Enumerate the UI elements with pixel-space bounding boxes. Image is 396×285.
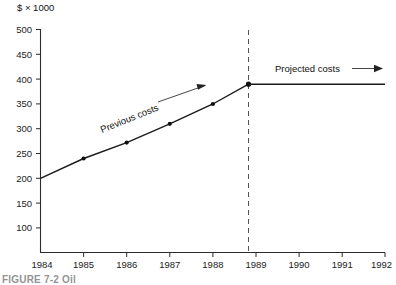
x-tick-label-1984: 1984 [31,259,52,270]
previous-costs-label: Previous costs [99,101,161,134]
x-tick-label-1988: 1988 [202,259,223,270]
x-tick-label-1986: 1986 [116,259,137,270]
y-tick-label-350: 350 [16,98,32,109]
y-tick-label-300: 300 [16,123,32,134]
x-tick-label-1987: 1987 [159,259,180,270]
data-point-1985 [82,156,86,160]
x-axis-ticks [84,253,385,258]
data-point-1987 [168,122,172,126]
x-tick-label-1989: 1989 [245,259,266,270]
projected-costs-annotation: Projected costs [275,63,383,74]
y-tick-label-250: 250 [16,148,32,159]
y-tick-label-450: 450 [16,49,32,60]
x-tick-label-1990: 1990 [289,259,310,270]
y-tick-label-200: 200 [16,173,32,184]
y-tick-label-100: 100 [16,222,32,233]
y-tick-label-150: 150 [16,198,32,209]
y-axis-title: $ × 1000 [17,2,54,13]
y-tick-label-400: 400 [16,74,32,85]
projected-costs-arrow-head [374,65,383,72]
y-axis-tick-labels: 500 450 400 350 300 250 200 150 100 [16,24,32,233]
x-tick-label-1992: 1992 [371,259,392,270]
previous-costs-annotation: Previous costs [99,84,207,135]
x-tick-label-1985: 1985 [73,259,94,270]
x-axis-tick-labels: 1984 1985 1986 1987 1988 1989 1990 1991 … [31,259,392,270]
figure-container: $ × 1000 500 450 400 350 300 250 200 150 [0,0,396,285]
previous-costs-line [41,84,249,178]
y-axis-ticks [36,30,41,228]
x-tick-label-1991: 1991 [332,259,353,270]
figure-caption: FIGURE 7-2 Oil [2,274,394,285]
y-tick-label-500: 500 [16,24,32,35]
previous-costs-arrow-head [197,84,207,90]
cost-projection-line-chart: $ × 1000 500 450 400 350 300 250 200 150 [0,0,396,285]
projected-costs-label: Projected costs [275,63,340,74]
data-point-1986 [125,141,129,145]
data-point-1988 [211,102,215,106]
